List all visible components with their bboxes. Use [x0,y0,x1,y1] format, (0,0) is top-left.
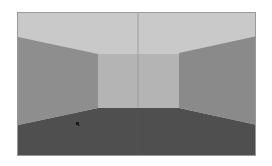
room-scene[interactable] [18,13,256,156]
game-viewport[interactable] [17,12,256,156]
